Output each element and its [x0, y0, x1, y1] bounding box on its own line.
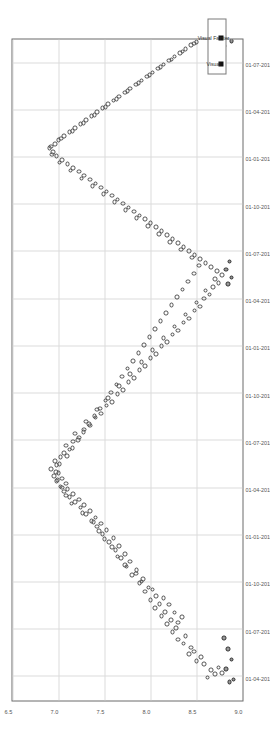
data-point — [208, 667, 213, 672]
data-point — [194, 658, 199, 663]
data-point — [63, 481, 68, 486]
data-point — [97, 406, 102, 411]
date-gridline — [12, 345, 242, 346]
data-point — [141, 342, 146, 347]
data-point — [161, 335, 166, 340]
data-point — [153, 224, 158, 229]
data-point — [134, 215, 139, 220]
data-point — [57, 461, 62, 466]
data-point — [164, 339, 169, 344]
data-point — [81, 429, 86, 434]
data-point — [229, 657, 234, 662]
data-point — [55, 477, 60, 482]
data-point — [212, 671, 217, 676]
data-point — [86, 421, 91, 426]
data-point — [81, 120, 86, 125]
data-point — [133, 571, 138, 576]
data-point — [92, 112, 97, 117]
data-point — [181, 320, 186, 325]
data-point — [49, 152, 54, 157]
legend: Visual Visual Fainter — [207, 18, 226, 74]
date-gridline — [12, 203, 242, 204]
chart-screenshot: 01-07-201801-04-201801-01-201801-10-2017… — [0, 0, 270, 729]
data-point — [59, 476, 64, 481]
data-point — [207, 292, 212, 297]
date-gridline — [12, 298, 242, 299]
data-point — [111, 535, 116, 540]
data-point — [197, 256, 202, 261]
data-point — [150, 587, 155, 592]
date-tick-label: 01-04-2018 — [245, 108, 270, 114]
data-point — [152, 326, 157, 331]
data-point — [175, 620, 180, 625]
data-point — [48, 466, 53, 471]
date-tick-label: 01-07-2015 — [245, 628, 270, 634]
data-point — [201, 296, 206, 301]
data-point — [196, 263, 201, 268]
data-point — [90, 183, 95, 188]
legend-item-visual: Visual — [210, 57, 223, 71]
data-point — [127, 371, 132, 376]
magnitude-tick-label: 7.5 — [96, 708, 104, 714]
data-point — [96, 529, 101, 534]
data-point — [198, 654, 203, 659]
data-point — [150, 347, 155, 352]
data-point — [201, 661, 206, 666]
data-point — [69, 501, 74, 506]
data-point — [75, 437, 80, 442]
date-gridline — [12, 109, 242, 110]
data-point — [122, 551, 127, 556]
date-tick-label: 01-07-2018 — [245, 61, 270, 67]
data-point — [210, 284, 215, 289]
magnitude-gridline — [104, 39, 105, 700]
data-point — [103, 104, 108, 109]
magnitude-gridline — [196, 39, 197, 700]
data-point — [188, 645, 193, 650]
data-point — [208, 264, 213, 269]
data-point — [158, 64, 163, 69]
data-point — [112, 199, 117, 204]
data-point — [63, 443, 68, 448]
data-point — [57, 160, 62, 165]
data-point — [153, 351, 158, 356]
data-point — [214, 268, 219, 273]
date-tick-label: 01-04-2017 — [245, 297, 270, 303]
data-point — [186, 316, 191, 321]
data-point — [148, 355, 153, 360]
data-point — [76, 169, 81, 174]
data-point — [127, 559, 132, 564]
data-point — [194, 300, 199, 305]
data-point — [197, 304, 202, 309]
data-point — [179, 614, 184, 619]
data-point — [98, 521, 103, 526]
data-point — [53, 469, 58, 474]
data-point — [79, 176, 84, 181]
data-point — [70, 491, 75, 496]
data-point — [142, 589, 147, 594]
data-point — [216, 665, 221, 670]
date-gridline — [12, 439, 242, 440]
data-point — [104, 527, 109, 532]
data-point — [63, 493, 68, 498]
date-gridline — [12, 628, 242, 629]
data-point — [175, 328, 180, 333]
data-point — [180, 287, 185, 292]
data-point — [156, 231, 161, 236]
date-gridline — [12, 250, 242, 251]
magnitude-gridline — [242, 39, 243, 700]
data-point — [219, 272, 224, 277]
data-point — [153, 593, 158, 598]
data-point — [180, 49, 185, 54]
data-point — [64, 453, 69, 458]
data-point — [161, 595, 166, 600]
data-point — [137, 367, 142, 372]
data-point — [192, 308, 197, 313]
data-point — [152, 605, 157, 610]
data-point — [92, 413, 97, 418]
data-point — [175, 637, 180, 642]
plot-area — [11, 38, 243, 701]
data-point — [68, 168, 73, 173]
date-tick-label: 01-01-2018 — [245, 155, 270, 161]
data-point — [162, 609, 167, 614]
date-tick-label: 01-07-2016 — [245, 439, 270, 445]
